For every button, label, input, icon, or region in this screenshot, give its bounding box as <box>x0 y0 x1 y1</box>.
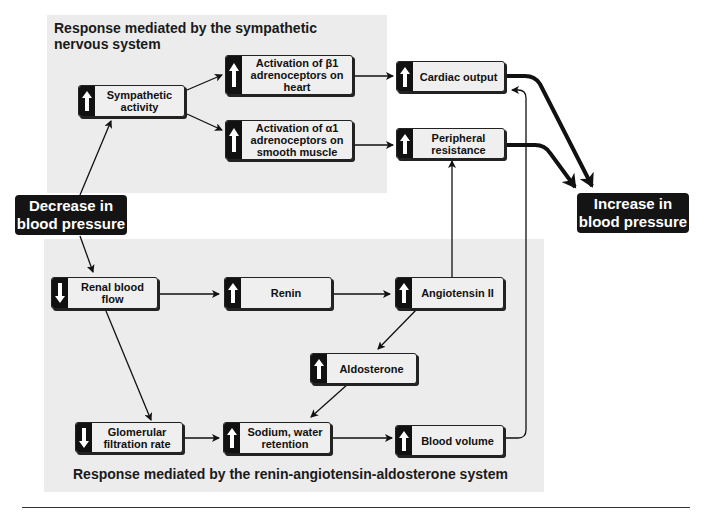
node-label: Activation of α1 adrenoceptors on smooth… <box>242 121 352 159</box>
decrease-blood-pressure-box: Decrease in blood pressure <box>15 195 127 235</box>
node-label: Blood volume <box>412 426 503 455</box>
node-blood-volume: Blood volume <box>395 425 504 456</box>
node-label: Angiotensin II <box>412 278 503 308</box>
node-sodium-water-retention: Sodium, water retention <box>223 422 331 454</box>
node-label: Activation of β1 adrenoceptors on heart <box>242 56 352 94</box>
arrow-up-icon <box>226 56 242 94</box>
node-cardiac-output: Cardiac output <box>396 61 505 92</box>
node-label: Sympathetic activity <box>95 86 184 116</box>
node-label: Glomerular filtration rate <box>92 423 182 452</box>
node-aldosterone: Aldosterone <box>310 353 417 384</box>
arrow-up-icon <box>311 354 327 383</box>
arrow-down-icon <box>52 278 68 308</box>
node-beta1-activation: Activation of β1 adrenoceptors on heart <box>225 55 353 95</box>
arrow-down-icon <box>76 423 92 452</box>
node-alpha1-activation: Activation of α1 adrenoceptors on smooth… <box>225 120 353 160</box>
arrow-up-icon <box>225 278 241 308</box>
arrow-up-icon <box>224 423 240 453</box>
node-label: Cardiac output <box>413 62 504 91</box>
arrow-up-icon <box>396 278 412 308</box>
arrow-up-icon <box>397 62 413 91</box>
node-sympathetic-activity: Sympathetic activity <box>78 85 185 117</box>
node-label: Peripheral resistance <box>413 129 504 158</box>
divider-rule <box>22 507 690 508</box>
increase-blood-pressure-box: Increase in blood pressure <box>577 193 689 233</box>
arrow-up-icon <box>226 121 242 159</box>
arrow-up-icon <box>79 86 95 116</box>
node-label: Aldosterone <box>327 354 416 383</box>
node-label: Renin <box>241 278 331 308</box>
node-renal-blood-flow: Renal blood flow <box>51 277 158 309</box>
node-label: Renal blood flow <box>68 278 157 308</box>
node-renin: Renin <box>224 277 332 309</box>
node-label: Sodium, water retention <box>240 423 330 453</box>
node-glomerular-filtration-rate: Glomerular filtration rate <box>75 422 183 453</box>
node-peripheral-resistance: Peripheral resistance <box>396 128 505 159</box>
node-angiotensin-ii: Angiotensin II <box>395 277 504 309</box>
arrow-up-icon <box>397 129 413 158</box>
arrow-up-icon <box>396 426 412 455</box>
